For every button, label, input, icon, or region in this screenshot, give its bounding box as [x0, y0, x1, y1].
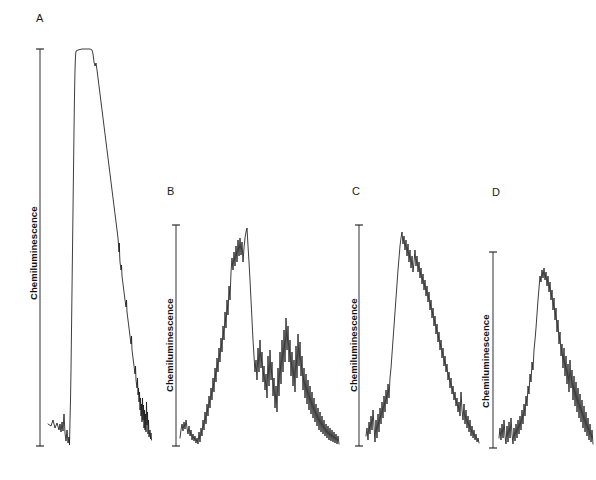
panel-letter-b: B: [167, 186, 175, 197]
trace-d: [499, 268, 593, 444]
chemiluminescence-figure: A Chemiluminescence B Chemiluminescence …: [0, 0, 596, 480]
axis-label-c: Chemiluminescence: [349, 298, 359, 392]
axis-label-d: Chemiluminescence: [481, 314, 491, 408]
panel-letter-a: A: [36, 13, 44, 24]
trace-layer: [0, 0, 596, 480]
axis-label-a: Chemiluminescence: [29, 206, 39, 300]
panel-letter-c: C: [352, 186, 360, 197]
trace-b: [180, 228, 339, 444]
trace-c: [366, 232, 479, 443]
panel-letter-d: D: [492, 187, 500, 198]
axis-label-b: Chemiluminescence: [165, 298, 175, 392]
trace-a: [48, 49, 152, 445]
